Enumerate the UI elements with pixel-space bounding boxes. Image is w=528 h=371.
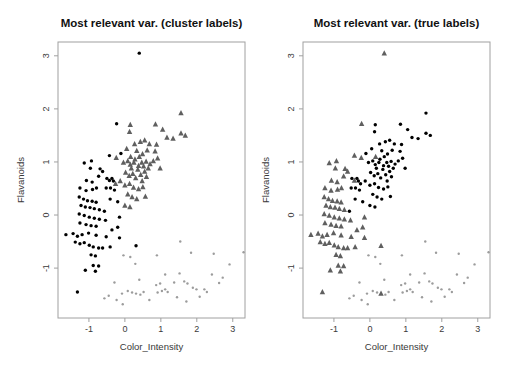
data-point bbox=[429, 134, 432, 137]
data-point bbox=[430, 300, 432, 302]
data-point bbox=[399, 123, 402, 126]
data-point bbox=[134, 148, 139, 153]
data-point bbox=[424, 111, 427, 114]
data-point bbox=[328, 204, 333, 209]
data-point bbox=[85, 179, 88, 182]
data-point bbox=[121, 292, 123, 294]
data-point bbox=[333, 252, 338, 257]
data-point bbox=[377, 161, 380, 164]
data-point bbox=[176, 296, 178, 298]
data-point bbox=[338, 232, 343, 237]
data-point bbox=[122, 202, 127, 207]
data-point bbox=[333, 165, 338, 170]
data-point bbox=[342, 207, 347, 212]
data-point bbox=[383, 279, 385, 281]
x-tick-label: 3 bbox=[230, 324, 235, 334]
data-point bbox=[119, 152, 122, 155]
data-point bbox=[94, 224, 97, 227]
data-point bbox=[93, 207, 96, 210]
data-point bbox=[368, 184, 371, 187]
data-point bbox=[359, 121, 364, 126]
data-point bbox=[386, 152, 389, 155]
data-point bbox=[360, 224, 365, 229]
data-point bbox=[101, 246, 104, 249]
data-point bbox=[80, 233, 83, 236]
data-point bbox=[379, 263, 381, 265]
data-point bbox=[140, 151, 145, 156]
y-tick-label: 1 bbox=[41, 159, 51, 164]
scatter-plots-canvas: -10123-10123-10123-10123 bbox=[0, 0, 528, 371]
data-point bbox=[101, 170, 104, 173]
data-point bbox=[104, 186, 107, 189]
data-point bbox=[359, 182, 362, 185]
data-point bbox=[315, 231, 320, 236]
data-point bbox=[376, 172, 379, 175]
data-point bbox=[192, 287, 194, 289]
data-point bbox=[393, 142, 396, 145]
data-point bbox=[144, 174, 149, 179]
data-point bbox=[78, 186, 81, 189]
data-point bbox=[358, 281, 360, 283]
data-point bbox=[104, 219, 107, 222]
data-point bbox=[338, 268, 343, 273]
data-point bbox=[348, 297, 350, 299]
data-point bbox=[332, 242, 337, 247]
data-point bbox=[423, 272, 425, 274]
data-point bbox=[358, 188, 361, 191]
data-point bbox=[323, 202, 328, 207]
data-point bbox=[368, 204, 371, 207]
data-point bbox=[142, 137, 147, 142]
data-point bbox=[87, 231, 90, 234]
data-point bbox=[79, 204, 82, 207]
data-point bbox=[132, 141, 137, 146]
data-point bbox=[332, 205, 337, 210]
data-point bbox=[98, 208, 101, 211]
data-point bbox=[352, 153, 357, 158]
data-point bbox=[328, 267, 333, 272]
data-point bbox=[374, 123, 377, 126]
data-point bbox=[388, 170, 391, 173]
data-point bbox=[406, 128, 409, 131]
data-point bbox=[360, 299, 362, 301]
data-point bbox=[76, 235, 79, 238]
data-point bbox=[129, 256, 131, 258]
y-tick-label: 0 bbox=[286, 213, 296, 218]
data-point bbox=[94, 234, 97, 237]
data-point bbox=[383, 155, 386, 158]
data-point bbox=[211, 273, 213, 275]
data-point bbox=[448, 288, 450, 290]
data-point bbox=[382, 50, 387, 55]
data-point bbox=[128, 122, 133, 127]
data-point bbox=[159, 282, 161, 284]
data-point bbox=[78, 242, 81, 245]
data-point bbox=[173, 281, 175, 283]
data-point bbox=[382, 164, 385, 167]
data-point bbox=[94, 270, 97, 273]
data-point bbox=[371, 193, 374, 196]
data-point bbox=[203, 288, 205, 290]
data-point bbox=[401, 254, 403, 256]
data-point bbox=[362, 235, 367, 240]
data-point bbox=[88, 215, 91, 218]
data-point bbox=[78, 221, 81, 224]
data-point bbox=[345, 245, 350, 250]
data-point bbox=[82, 197, 85, 200]
data-point bbox=[308, 232, 313, 237]
data-point bbox=[400, 143, 403, 146]
data-point bbox=[385, 161, 388, 164]
data-point bbox=[353, 295, 355, 297]
data-point bbox=[373, 182, 376, 185]
data-point bbox=[127, 129, 132, 134]
data-point bbox=[92, 264, 95, 267]
data-point bbox=[108, 154, 111, 157]
data-point bbox=[228, 263, 230, 265]
data-point bbox=[138, 172, 143, 177]
data-point bbox=[361, 200, 364, 203]
data-point bbox=[97, 175, 100, 178]
data-point bbox=[375, 167, 378, 170]
data-point bbox=[367, 303, 369, 305]
data-point bbox=[83, 241, 86, 244]
data-point bbox=[339, 185, 344, 190]
data-point bbox=[373, 174, 376, 177]
data-point bbox=[114, 155, 119, 160]
